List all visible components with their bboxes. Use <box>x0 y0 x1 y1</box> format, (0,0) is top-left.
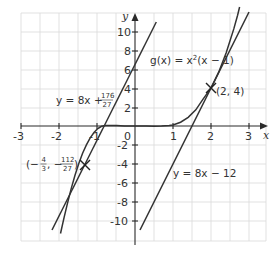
function-graph: x -3 -2 -1 1 2 3 0 y 10 8 6 4 2 -2 -4 - <box>0 0 278 254</box>
x-numerator: 4 <box>42 156 47 164</box>
x-tick-label: -3 <box>13 130 24 143</box>
svg-text:g(x) = x2(x − 1): g(x) = x2(x − 1) <box>150 54 234 66</box>
label-tangent-lower: y = 8x − 12 <box>173 167 236 179</box>
cubic-curve-g <box>61 7 240 234</box>
x-axis-label: x <box>263 129 270 142</box>
x-tick-label: 1 <box>170 130 177 143</box>
label-tangent-upper: y = 8x + 176 27 <box>56 92 115 109</box>
point-marker-neg4-3 <box>80 160 90 170</box>
label-g: g(x) = x2(x − 1) <box>150 54 234 66</box>
y-tick-label: -4 <box>117 158 128 171</box>
paren-close: ) <box>74 158 78 170</box>
y-tick-label: 2 <box>124 102 131 115</box>
point-label-neg4-3: (− 4 3 , − 112 27 ) <box>26 156 78 173</box>
tangent-upper-num: 176 <box>101 92 115 100</box>
x-tick-label: 3 <box>245 130 252 143</box>
y-tick-label: -8 <box>117 196 128 209</box>
point-label-2-4: (2, 4) <box>216 85 244 97</box>
tangent-line-lower <box>140 12 249 230</box>
y-tick-label: 8 <box>124 45 131 58</box>
y-tick-label: -2 <box>117 139 128 152</box>
x-tick-label: -2 <box>51 130 62 143</box>
y-axis: y 10 8 6 4 2 -2 -4 -6 -8 -10 <box>110 10 139 245</box>
y-axis-label: y <box>121 10 129 23</box>
y-tick-label: -10 <box>110 215 128 228</box>
tangent-upper-prefix: y = 8x + <box>56 94 103 106</box>
paren-open: (− <box>26 158 39 170</box>
x-denominator: 3 <box>42 165 46 173</box>
x-tick-label: 2 <box>207 130 214 143</box>
g-label-main: g(x) = x <box>150 54 193 66</box>
g-label-tail: (x − 1) <box>197 54 234 66</box>
y-tick-label: 10 <box>117 26 131 39</box>
tangent-upper-den: 27 <box>103 101 112 109</box>
y-axis-arrow-icon <box>132 13 139 21</box>
y-denominator: 27 <box>63 165 72 173</box>
y-numerator: 112 <box>61 156 74 164</box>
y-tick-label: -6 <box>117 177 128 190</box>
